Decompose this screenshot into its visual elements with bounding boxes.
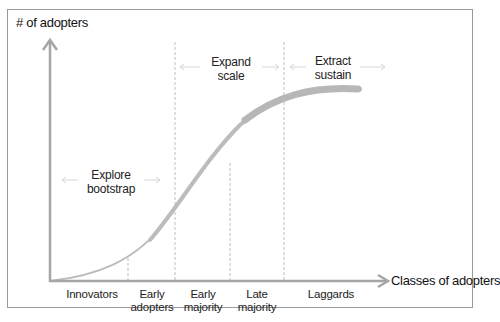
phase-label-expand: Expand scale [200, 55, 262, 83]
category-early-majority: Early majority [176, 288, 230, 314]
phase-label-explore: Explore bootstrap [78, 168, 144, 196]
y-axis-label: # of adopters [16, 16, 88, 29]
phase-label-extract: Extract sustain [306, 54, 360, 82]
x-axis-label: Classes of adopters [391, 274, 500, 287]
category-innovators: Innovators [58, 288, 126, 301]
category-late-majority: Late majority [230, 288, 284, 314]
category-early-adopters: Early adopters [128, 288, 176, 314]
category-laggards: Laggards [300, 288, 362, 301]
